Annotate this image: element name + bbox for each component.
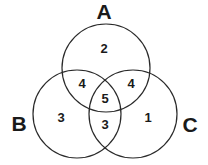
set-b-circle <box>33 70 121 158</box>
set-c-label: C <box>182 113 197 136</box>
region-b-only-count: 3 <box>57 110 64 125</box>
region-a-c-count: 4 <box>127 76 135 91</box>
set-a-label: A <box>96 0 111 23</box>
region-a-only-count: 2 <box>100 41 107 56</box>
region-a-b-c-count: 5 <box>101 91 108 106</box>
region-b-c-count: 3 <box>101 117 108 132</box>
region-a-b-count: 4 <box>78 76 86 91</box>
set-b-label: B <box>11 112 26 135</box>
venn-diagram: A B C 2 4 4 5 3 3 1 <box>0 0 208 165</box>
region-c-only-count: 1 <box>144 110 151 125</box>
